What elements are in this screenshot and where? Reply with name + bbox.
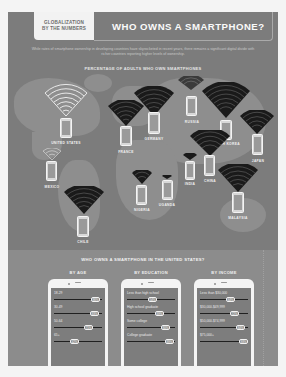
malaysia-phone-icon (232, 192, 244, 213)
country-label-united-states: UNITED STATES (46, 141, 86, 145)
country-label-malaysia: MALAYSIA (218, 216, 258, 220)
country-label-chile: CHILE (63, 240, 103, 244)
income-slider-value: 72% (230, 311, 239, 316)
education-slider-track: 80% (127, 327, 175, 328)
column-header-income: BY INCOME (194, 270, 254, 275)
age-phone-screen: 18-29 86% 30-49 83% 50-64 71% 65+ 42% (51, 288, 105, 366)
income-slider-track: 72% (200, 313, 248, 314)
country-label-germany: GERMANY (134, 137, 174, 141)
income-row-label: Less than $30,000 (200, 291, 227, 295)
malaysia-signal-icon (218, 164, 258, 192)
decorative-divider (263, 250, 268, 366)
age-row-label: 65+ (54, 333, 60, 337)
income-slider-track: 84% (200, 327, 248, 328)
phone-speaker-icon (221, 282, 227, 283)
united-states-signal-icon (44, 83, 88, 117)
page-title: WHO OWNS A SMARTPHONE? (112, 21, 265, 32)
age-slider-value: 71% (84, 325, 93, 330)
education-phone-screen: Less than high school 54% High school gr… (124, 288, 178, 366)
india-phone-icon (185, 161, 195, 180)
income-row-label: $50,000-$74,999 (200, 319, 225, 323)
series-tag: GLOBALIZATION BY THE NUMBERS (34, 12, 94, 40)
age-slider-track: 71% (54, 327, 102, 328)
age-slider-value: 86% (91, 297, 100, 302)
france-phone-icon (120, 126, 132, 146)
age-slider-track: 83% (54, 313, 102, 314)
age-slider-value: 42% (70, 339, 79, 344)
phone-speaker-icon (75, 282, 81, 283)
india-signal-icon (183, 153, 197, 160)
phone-camera-icon (141, 283, 143, 285)
country-label-russia: RUSSIA (172, 120, 212, 124)
phone-camera-icon (214, 283, 216, 285)
infographic-panel: GLOBALIZATION BY THE NUMBERS WHO OWNS A … (8, 12, 278, 366)
age-phone-frame: 18-29 86% 30-49 83% 50-64 71% 65+ 42% (48, 279, 108, 366)
map-title: PERCENTAGE OF ADULTS WHO OWN SMARTPHONES (8, 66, 278, 71)
us-section-title: WHO OWNS A SMARTPHONE IN THE UNITED STAT… (8, 257, 278, 262)
income-slider-value: 84% (236, 325, 245, 330)
education-row-label: High school graduate (127, 305, 158, 309)
income-phone-screen: Less than $30,000 64% $30,000-$49,999 72… (197, 288, 251, 366)
education-row-label: Some college (127, 319, 147, 323)
age-row-label: 30-49 (54, 305, 62, 309)
russia-phone-icon (186, 96, 197, 116)
country-label-france: FRANCE (106, 150, 146, 154)
age-slider-value: 83% (90, 311, 99, 316)
germany-phone-icon (148, 112, 160, 134)
income-phone-frame: Less than $30,000 64% $30,000-$49,999 72… (194, 279, 254, 366)
income-row-label: $75,000+ (200, 333, 214, 337)
education-slider-value: 69% (155, 311, 164, 316)
intro-text: While rates of smartphone ownership in d… (30, 47, 256, 57)
china-phone-icon (204, 155, 215, 176)
greenland-landmass (84, 74, 112, 92)
russia-signal-icon (178, 76, 204, 90)
nigeria-signal-icon (132, 170, 152, 184)
phone-camera-icon (68, 283, 70, 285)
age-row-label: 18-29 (54, 291, 62, 295)
uganda-phone-icon (162, 180, 173, 200)
chile-phone-icon (77, 216, 89, 237)
mexico-phone-icon (46, 161, 57, 181)
age-slider-track: 42% (54, 341, 102, 342)
country-label-nigeria: NIGERIA (122, 208, 162, 212)
phone-speaker-icon (148, 282, 154, 283)
japan-phone-icon (252, 134, 263, 155)
world-map: UNITED STATES FRANCE GERMANY RUSSIA SOUT… (8, 74, 278, 250)
japan-signal-icon (240, 110, 274, 134)
education-row-label: College graduate (127, 333, 152, 337)
age-slider-track: 86% (54, 299, 102, 300)
education-phone-frame: Less than high school 54% High school gr… (121, 279, 181, 366)
income-slider-value: 64% (226, 297, 235, 302)
income-slider-track: 93% (200, 341, 248, 342)
uganda-signal-icon (162, 175, 172, 179)
income-row-label: $30,000-$49,999 (200, 305, 225, 309)
education-slider-track: 89% (127, 341, 175, 342)
income-slider-track: 64% (200, 299, 248, 300)
education-slider-track: 54% (127, 299, 175, 300)
education-slider-track: 69% (127, 313, 175, 314)
nigeria-phone-icon (136, 185, 147, 205)
united-states-phone-icon (60, 118, 72, 138)
column-header-education: BY EDUCATION (121, 270, 181, 275)
education-slider-value: 80% (161, 325, 170, 330)
country-label-japan: JAPAN (238, 159, 278, 163)
country-label-india: INDIA (170, 182, 210, 186)
column-header-age: BY AGE (48, 270, 108, 275)
age-row-label: 50-64 (54, 319, 62, 323)
education-slider-value: 54% (148, 297, 157, 302)
education-row-label: Less than high school (127, 291, 159, 295)
series-tag-line2: BY THE NUMBERS (42, 26, 86, 32)
chile-signal-icon (64, 186, 104, 214)
income-slider-value: 93% (239, 339, 248, 344)
mexico-signal-icon (42, 148, 62, 160)
us-breakdown-section: WHO OWNS A SMARTPHONE IN THE UNITED STAT… (8, 250, 278, 366)
education-slider-value: 89% (165, 339, 174, 344)
country-label-uganda: UGANDA (147, 203, 187, 207)
